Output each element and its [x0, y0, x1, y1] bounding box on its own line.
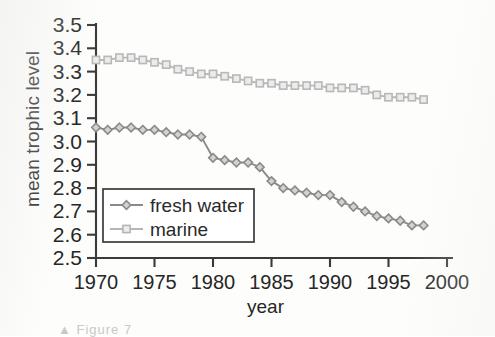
- x-axis-label: year: [0, 296, 495, 318]
- y-tick-label: 3.4: [53, 36, 83, 59]
- y-tick-label: 2.8: [53, 176, 82, 199]
- y-tick-label: 2.7: [53, 199, 82, 222]
- x-tick-label: 1985: [249, 271, 294, 293]
- series-marine: [92, 54, 427, 103]
- legend-label: marine: [150, 219, 208, 240]
- y-tick-label: 3.3: [53, 60, 82, 83]
- y-tick-label: 3.2: [53, 83, 82, 106]
- x-tick-label: 1995: [366, 271, 411, 293]
- x-axis-ticks: 1970197519801985199019952000: [74, 258, 470, 293]
- y-tick-label: 2.9: [53, 153, 82, 176]
- x-tick-label: 2000: [425, 271, 470, 293]
- x-tick-label: 1980: [191, 271, 236, 293]
- y-tick-label: 3.0: [53, 130, 82, 153]
- y-tick-label: 3.1: [53, 106, 82, 129]
- y-tick-label: 2.6: [53, 223, 82, 246]
- legend-label: fresh water: [150, 195, 245, 216]
- x-tick-label: 1975: [132, 271, 177, 293]
- x-tick-label: 1990: [308, 271, 353, 293]
- y-tick-label: 2.5: [53, 246, 82, 269]
- y-axis-ticks: 3.53.43.33.23.13.02.92.82.72.62.5: [53, 13, 96, 269]
- caption-fragment: ▲ Figure 7: [58, 322, 132, 337]
- x-tick-label: 1970: [74, 271, 119, 293]
- chart-legend: fresh watermarine: [103, 189, 254, 242]
- y-tick-label: 3.5: [53, 13, 82, 36]
